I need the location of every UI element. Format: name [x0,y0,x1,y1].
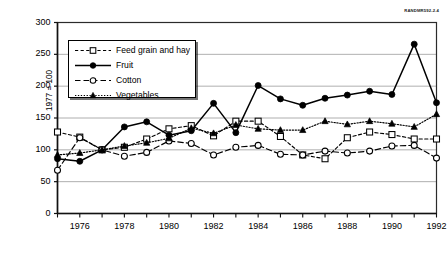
data-point [434,136,440,142]
data-point [433,111,439,117]
data-point [434,100,440,106]
data-point [211,100,217,106]
y-tick-label: 0 [25,208,51,218]
data-point [322,95,328,101]
legend-label: Fruit [116,59,133,72]
data-point [367,88,373,94]
data-point [233,130,239,136]
legend-key-icon [73,74,113,87]
data-point [166,126,172,132]
data-point [411,136,417,142]
data-point [300,152,306,158]
data-point [389,91,395,97]
data-point [55,129,61,135]
data-point [255,142,261,148]
x-tick-label: 1980 [149,221,189,231]
data-point [144,119,150,125]
legend-label: Vegetables [116,89,159,102]
x-tick-label: 1992 [417,221,448,231]
y-tick-label: 150 [25,112,51,122]
legend-key-icon [73,44,113,57]
y-tick-label: 250 [25,48,51,58]
series-line [58,138,437,170]
chart-figure: RANDMR592-2.4 1977 = 100 050100150200250… [0,0,448,260]
legend-key-icon [73,89,113,102]
y-tick-label: 300 [25,17,51,27]
x-tick-label: 1988 [327,221,367,231]
data-point [188,140,194,146]
x-tick-label: 1986 [283,221,323,231]
data-point [144,149,150,155]
data-point [121,153,127,159]
x-tick-label: 1976 [60,221,100,231]
data-point [344,135,350,141]
data-point [77,158,83,164]
data-point [233,144,239,150]
legend-item-cotton: Cotton [69,74,195,87]
x-tick-label: 1990 [372,221,412,231]
data-point [277,96,283,102]
data-point [344,150,350,156]
data-point [211,152,217,158]
data-point [300,102,306,108]
legend-label: Cotton [116,74,141,87]
legend-key-icon [73,59,113,72]
x-tick-label: 1978 [104,221,144,231]
legend-item-feed-grain-and-hay: Feed grain and hay [69,44,195,57]
data-point [366,118,372,124]
data-point [54,152,60,158]
data-point [322,148,328,154]
data-point [77,135,83,141]
series-cotton [55,135,440,173]
y-tick-label: 100 [25,144,51,154]
x-tick-label: 1984 [238,221,278,231]
data-point [255,83,261,89]
y-tick-label: 50 [25,176,51,186]
x-tick-label: 1982 [194,221,234,231]
data-point [411,41,417,47]
legend-label: Feed grain and hay [116,44,190,57]
data-point [55,167,61,173]
data-point [367,148,373,154]
data-point [255,118,261,124]
data-point [344,92,350,98]
data-point [434,155,440,161]
data-point [277,151,283,157]
data-point [277,133,283,139]
data-point [411,142,417,148]
data-point [367,129,373,135]
data-point [121,124,127,130]
legend-item-fruit: Fruit [69,59,195,72]
data-point [389,132,395,138]
data-point [389,143,395,149]
data-point [322,156,328,162]
legend-item-vegetables: Vegetables [69,89,195,102]
y-tick-label: 200 [25,80,51,90]
data-point [322,118,328,124]
chart-legend: Feed grain and hayFruitCottonVegetables [68,40,196,98]
